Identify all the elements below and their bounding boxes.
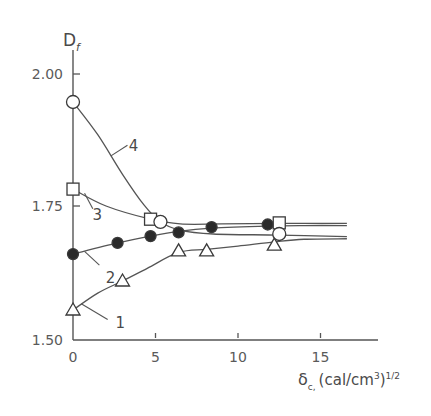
curve-label-4: 4 [129,137,139,155]
x-axis-title: δc,(cal/cm3)1/2 [298,370,400,392]
leader-line [85,251,100,265]
curve-labels: 1234 [81,137,138,332]
curve-3 [73,189,347,224]
chart-canvas: 0510151.501.752.00 1234 Df δc,(cal/cm3)1… [0,0,431,416]
y-tick-label: 1.50 [32,332,63,348]
triangle-marker [116,274,130,286]
x-tick-label: 5 [151,349,160,365]
filled-circle-marker [68,249,79,260]
filled-circle-marker [173,227,184,238]
leader-line [111,145,128,156]
curve-label-2: 2 [106,269,116,287]
curve-label-1: 1 [116,314,126,332]
x-tick-label: 10 [229,349,247,365]
triangle-marker [66,303,80,315]
filled-circle-marker [145,231,156,242]
curve-label-3: 3 [93,206,103,224]
filled-circle-marker [262,219,273,230]
x-tick-label: 15 [312,349,330,365]
open-circle-marker [154,215,167,228]
y-tick-label: 1.75 [32,198,63,214]
y-tick-label: 2.00 [32,66,63,82]
ticks: 0510151.501.752.00 [32,66,330,365]
leader-line [81,304,107,320]
filled-circle-marker [112,237,123,248]
triangle-marker [172,244,186,256]
open-circle-marker [273,227,286,240]
x-tick-label: 0 [69,349,78,365]
open-circle-marker [67,95,80,108]
square-marker [67,183,79,195]
curve-4 [73,102,347,237]
axes [73,50,378,340]
filled-circle-marker [206,222,217,233]
